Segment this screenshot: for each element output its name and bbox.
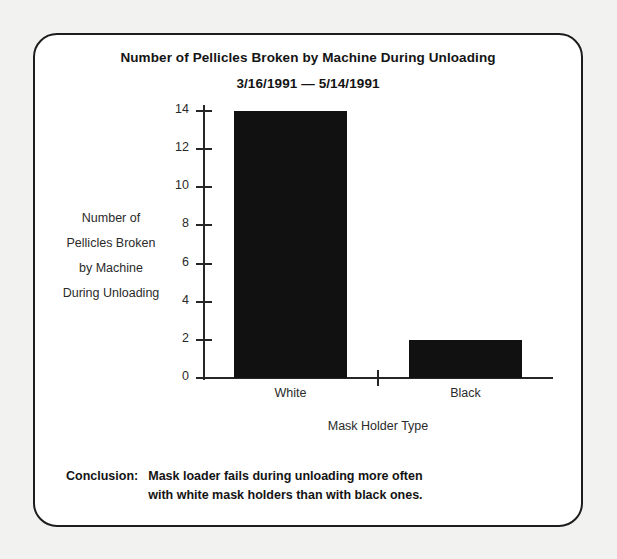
y-axis-tick-label: 8 — [155, 216, 189, 230]
conclusion-text: Mask loader fails during unloading more … — [148, 467, 422, 505]
conclusion-text-line-1: Mask loader fails during unloading more … — [148, 467, 422, 486]
y-axis-tick-label: 0 — [155, 369, 189, 383]
y-axis-tick-label: 10 — [155, 178, 189, 192]
y-axis-tick-label: 6 — [155, 255, 189, 269]
y-axis-tick-label: 12 — [155, 140, 189, 154]
bar-white — [234, 111, 347, 378]
y-axis-tick — [196, 186, 212, 188]
y-axis-title-line-2: Pellicles Broken — [35, 231, 187, 256]
chart-title: Number of Pellicles Broken by Machine Du… — [40, 50, 576, 65]
chart-subtitle-date-range: 3/16/1991 — 5/14/1991 — [40, 76, 576, 91]
y-axis-tick-label: 4 — [155, 293, 189, 307]
conclusion-text-line-2: with white mask holders than with black … — [148, 486, 422, 505]
x-axis-label-black: Black — [416, 386, 516, 400]
bar-black — [409, 340, 522, 378]
x-axis-label-white: White — [241, 386, 341, 400]
chart-page: Number of Pellicles Broken by Machine Du… — [0, 0, 617, 559]
y-axis-tick — [196, 301, 212, 303]
y-axis-tick — [196, 339, 212, 341]
conclusion-label: Conclusion: — [66, 467, 138, 486]
y-axis-tick — [196, 263, 212, 265]
y-axis-tick — [196, 110, 212, 112]
y-axis-tick — [196, 377, 212, 379]
y-axis-tick — [196, 224, 212, 226]
y-axis-tick-label: 2 — [155, 331, 189, 345]
y-axis-tick-label: 14 — [155, 102, 189, 116]
conclusion-block: Conclusion: Mask loader fails during unl… — [66, 467, 556, 505]
x-axis-middle-tick — [377, 370, 379, 386]
y-axis-tick — [196, 148, 212, 150]
x-axis-title: Mask Holder Type — [203, 419, 553, 433]
